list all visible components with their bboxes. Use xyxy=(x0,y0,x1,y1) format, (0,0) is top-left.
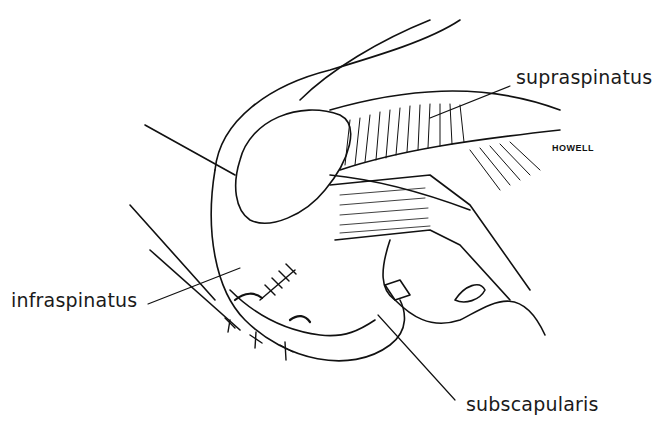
artist-signature: HOWELL xyxy=(552,143,594,153)
shoulder-drawing xyxy=(0,0,664,423)
label-subscapularis: subscapularis xyxy=(466,393,599,415)
anatomy-illustration: supraspinatus infraspinatus subscapulari… xyxy=(0,0,664,423)
label-infraspinatus: infraspinatus xyxy=(11,289,137,311)
label-supraspinatus: supraspinatus xyxy=(516,66,652,88)
